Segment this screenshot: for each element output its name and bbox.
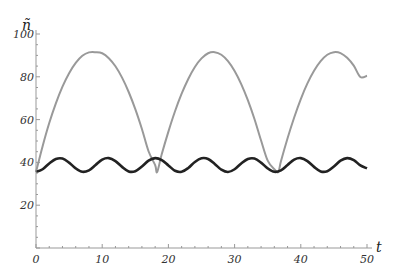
x-tick-label: 10	[95, 253, 109, 266]
x-tick-label: 30	[228, 253, 242, 266]
y-axis-label: ñ	[22, 17, 31, 33]
series-line-gray	[36, 52, 367, 172]
y-tick-label: 20	[19, 199, 34, 212]
y-tick-label: 80	[20, 71, 34, 84]
plot-series	[36, 52, 367, 172]
line-chart: 20406080100 01020304050 ñ t	[0, 0, 403, 276]
y-tick-label: 40	[19, 156, 34, 169]
x-tick-label: 20	[160, 253, 175, 266]
series-line-black	[36, 158, 367, 172]
x-ticks: 01020304050	[33, 244, 375, 266]
y-tick-label: 60	[20, 114, 34, 127]
x-tick-label: 40	[293, 253, 308, 266]
x-tick-label: 0	[33, 253, 40, 266]
x-axis-label: t	[376, 239, 382, 255]
x-tick-label: 50	[360, 253, 374, 266]
